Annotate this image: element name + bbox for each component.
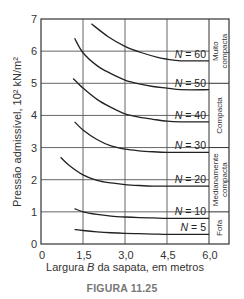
- curve-label: N = 5: [181, 221, 207, 233]
- y-tick-label: 1: [31, 206, 37, 218]
- curve-label: N = 50: [175, 77, 206, 89]
- x-tick-label: 4,5: [160, 249, 175, 261]
- y-axis-label: Pressão admissível, 10² kN/m²: [11, 57, 23, 207]
- density-bands: MuitocompactaCompactaMedianamentecompact…: [209, 33, 229, 236]
- density-band-label: Fofa: [215, 219, 224, 236]
- y-tick-label: 6: [31, 45, 37, 57]
- y-tick-label: 5: [31, 77, 37, 89]
- curve-labels: N = 60N = 50N = 40N = 30N = 20N = 10N = …: [175, 48, 206, 234]
- figure-caption: FIGURA 11.25: [0, 282, 244, 294]
- density-band-label: Medianamentecompacta: [211, 153, 229, 206]
- curve-label: N = 30: [175, 139, 206, 151]
- bearing-pressure-chart: N = 60N = 50N = 40N = 30N = 20N = 10N = …: [0, 0, 244, 299]
- y-tick-label: 3: [31, 142, 37, 154]
- x-tick-label: 6,0: [202, 249, 217, 261]
- y-tick-label: 4: [31, 109, 37, 121]
- density-band-label: Compacta: [215, 97, 224, 134]
- curve-label: N = 40: [175, 109, 206, 121]
- x-tick-label: 1,5: [76, 249, 91, 261]
- curve-label: N = 60: [175, 48, 206, 60]
- x-tick-label: 3,0: [118, 249, 133, 261]
- curve-label: N = 10: [175, 205, 206, 217]
- x-axis-label: Largura B da sapata, em metros: [46, 261, 204, 273]
- curve-label: N = 20: [175, 173, 206, 185]
- density-band-label: Muitocompacta: [211, 33, 229, 68]
- y-tick-label: 2: [31, 174, 37, 186]
- y-tick-label: 0: [31, 238, 37, 250]
- y-tick-label: 7: [31, 13, 37, 25]
- x-tick-label: 0: [39, 249, 45, 261]
